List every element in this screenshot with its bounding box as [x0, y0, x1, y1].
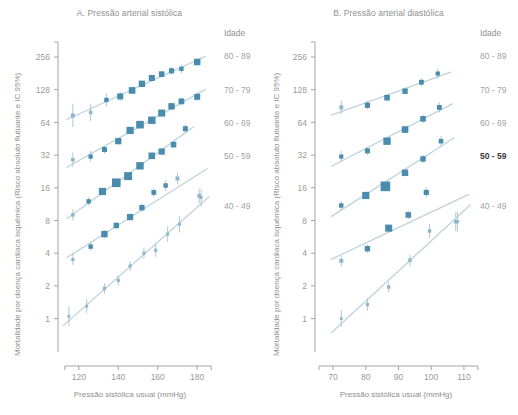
data-point-marker — [183, 126, 188, 131]
legend-item-age-80-89: 80 - 89 — [480, 51, 506, 61]
data-point-marker — [149, 153, 156, 160]
y-axis-tick-label: 1 — [302, 314, 307, 324]
data-point-marker — [339, 259, 343, 263]
data-point-marker — [339, 154, 343, 158]
data-point-marker — [124, 172, 132, 180]
panel-systolic: A. Pressão arterial sistólica Mortalidad… — [0, 0, 259, 415]
data-point-marker — [436, 72, 440, 76]
data-point-marker — [169, 68, 174, 73]
data-point-marker — [142, 252, 145, 255]
data-point-marker — [148, 117, 155, 124]
data-point-marker — [171, 142, 177, 148]
y-axis-tick-label: 64 — [298, 118, 308, 128]
data-series — [71, 58, 201, 127]
data-point-marker — [151, 190, 156, 195]
data-series — [339, 136, 443, 210]
trend-line — [63, 197, 209, 326]
trend-line — [67, 169, 207, 258]
data-point-marker — [166, 233, 169, 236]
data-point-marker — [200, 196, 203, 199]
y-axis-tick-label: 256 — [36, 52, 50, 62]
x-axis-tick-label: 90 — [394, 372, 404, 382]
data-point-marker — [158, 110, 165, 117]
y-axis-tick-label: 4 — [45, 248, 50, 258]
data-point-marker — [127, 127, 134, 134]
x-axis-tick-label: 140 — [111, 372, 125, 382]
data-point-marker — [139, 81, 145, 87]
panel-a-plot-area: 2561286432168421120140160180 — [0, 0, 259, 415]
data-point-marker — [104, 98, 108, 102]
data-point-marker — [159, 148, 165, 154]
data-point-marker — [406, 212, 412, 218]
data-point-marker — [402, 88, 407, 93]
y-axis-tick-label: 1 — [45, 314, 50, 324]
y-axis-tick-label: 32 — [41, 150, 51, 160]
trend-line — [331, 138, 454, 216]
legend-item-age-50-59: 50 - 59 — [224, 151, 250, 161]
x-axis-tick-label: 160 — [151, 372, 165, 382]
data-point-marker — [71, 258, 74, 261]
data-point-marker — [163, 183, 167, 187]
legend-item-age-70-79: 70 - 79 — [224, 85, 250, 95]
data-point-marker — [384, 95, 390, 101]
data-point-marker — [89, 111, 93, 115]
trend-line — [331, 205, 470, 333]
y-axis-tick-label: 16 — [298, 183, 308, 193]
y-axis-tick-label: 32 — [298, 150, 308, 160]
data-point-marker — [408, 258, 411, 261]
data-series — [340, 212, 459, 327]
data-point-marker — [194, 94, 200, 100]
data-point-marker — [114, 223, 119, 228]
data-point-marker — [129, 264, 132, 267]
data-point-marker — [159, 71, 165, 77]
data-point-marker — [136, 162, 143, 169]
data-point-marker — [88, 244, 92, 248]
data-point-marker — [437, 105, 442, 110]
data-series — [71, 124, 188, 220]
y-axis-tick-label: 16 — [41, 183, 51, 193]
data-point-marker — [424, 190, 429, 195]
legend-item-age-80-89: 80 - 89 — [224, 51, 250, 61]
legend-item-age-50-59: 50 - 59 — [480, 151, 506, 161]
data-point-marker — [428, 229, 431, 232]
data-point-marker — [339, 203, 343, 207]
y-axis-tick-label: 256 — [293, 52, 307, 62]
legend-item-age-40-49: 40 - 49 — [480, 201, 506, 211]
x-axis-tick-label: 180 — [190, 372, 204, 382]
y-axis-tick-label: 4 — [302, 248, 307, 258]
data-point-marker — [179, 67, 183, 71]
data-point-marker — [136, 121, 144, 129]
panel-b-y-axis-label: Mortalidade por doença cardíaca isquêmic… — [272, 73, 281, 356]
x-axis-tick-label: 110 — [457, 372, 471, 382]
x-axis-tick-label: 120 — [72, 372, 86, 382]
data-point-marker — [381, 182, 391, 192]
data-point-marker — [179, 98, 185, 104]
data-point-marker — [139, 205, 144, 210]
legend-item-age-60-69: 60 - 69 — [480, 118, 506, 128]
data-point-marker — [117, 93, 123, 99]
data-point-marker — [112, 178, 121, 187]
data-point-marker — [85, 305, 88, 308]
data-point-marker — [71, 114, 75, 118]
data-point-marker — [383, 137, 390, 144]
data-point-marker — [420, 156, 425, 161]
y-axis-tick-label: 8 — [45, 216, 50, 226]
data-point-marker — [129, 87, 136, 94]
data-point-marker — [385, 225, 392, 232]
data-point-marker — [340, 317, 343, 320]
data-point-marker — [365, 148, 370, 153]
y-axis-tick-label: 64 — [41, 118, 51, 128]
data-point-marker — [420, 116, 426, 122]
y-axis-tick-label: 128 — [293, 85, 307, 95]
data-point-marker — [71, 213, 74, 216]
data-point-marker — [149, 75, 155, 81]
data-point-marker — [456, 220, 459, 223]
data-point-marker — [178, 223, 181, 226]
trend-line — [331, 194, 468, 259]
data-point-marker — [366, 303, 369, 306]
data-point-marker — [402, 126, 409, 133]
data-point-marker — [103, 287, 106, 290]
figure-root: A. Pressão arterial sistólica Mortalidad… — [0, 0, 518, 415]
trend-line — [67, 56, 205, 119]
legend-item-age-60-69: 60 - 69 — [224, 118, 250, 128]
